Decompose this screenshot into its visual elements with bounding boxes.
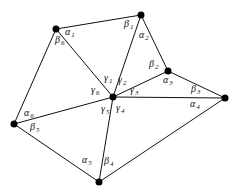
vertex-4 <box>222 95 229 102</box>
vertex-5 <box>96 179 103 186</box>
angle-label: γ5 <box>101 103 110 116</box>
angle-label: β4 <box>103 155 114 168</box>
vertex-center <box>110 94 117 101</box>
angle-label: γ1 <box>104 72 112 85</box>
angle-label: γ6 <box>91 84 100 97</box>
angle-label: α3 <box>163 74 173 87</box>
vertex-1 <box>53 26 60 33</box>
angle-label: α2 <box>139 29 149 42</box>
angle-label: β3 <box>190 83 201 96</box>
angle-label: α1 <box>65 26 75 39</box>
angle-label: α5 <box>82 154 92 167</box>
angle-label: β6 <box>54 34 65 47</box>
vertices <box>11 12 229 186</box>
spoke-1 <box>56 29 113 97</box>
angle-label: β1 <box>123 18 133 31</box>
angle-label: γ2 <box>118 74 127 87</box>
vertex-6 <box>11 121 18 128</box>
angle-label: α4 <box>190 98 200 111</box>
angle-label: γ3 <box>130 84 139 97</box>
vertex-2 <box>138 12 145 19</box>
triangulation-diagram: α1β1α2β2α3β3α4β4α5β5α6β6γ1γ2γ3γ4γ5γ6 <box>0 0 239 195</box>
angle-label: β2 <box>148 58 159 71</box>
angle-label: α6 <box>24 107 34 120</box>
angle-label: β5 <box>29 121 40 134</box>
angle-label: γ4 <box>116 102 125 115</box>
spoke-4 <box>113 97 225 98</box>
